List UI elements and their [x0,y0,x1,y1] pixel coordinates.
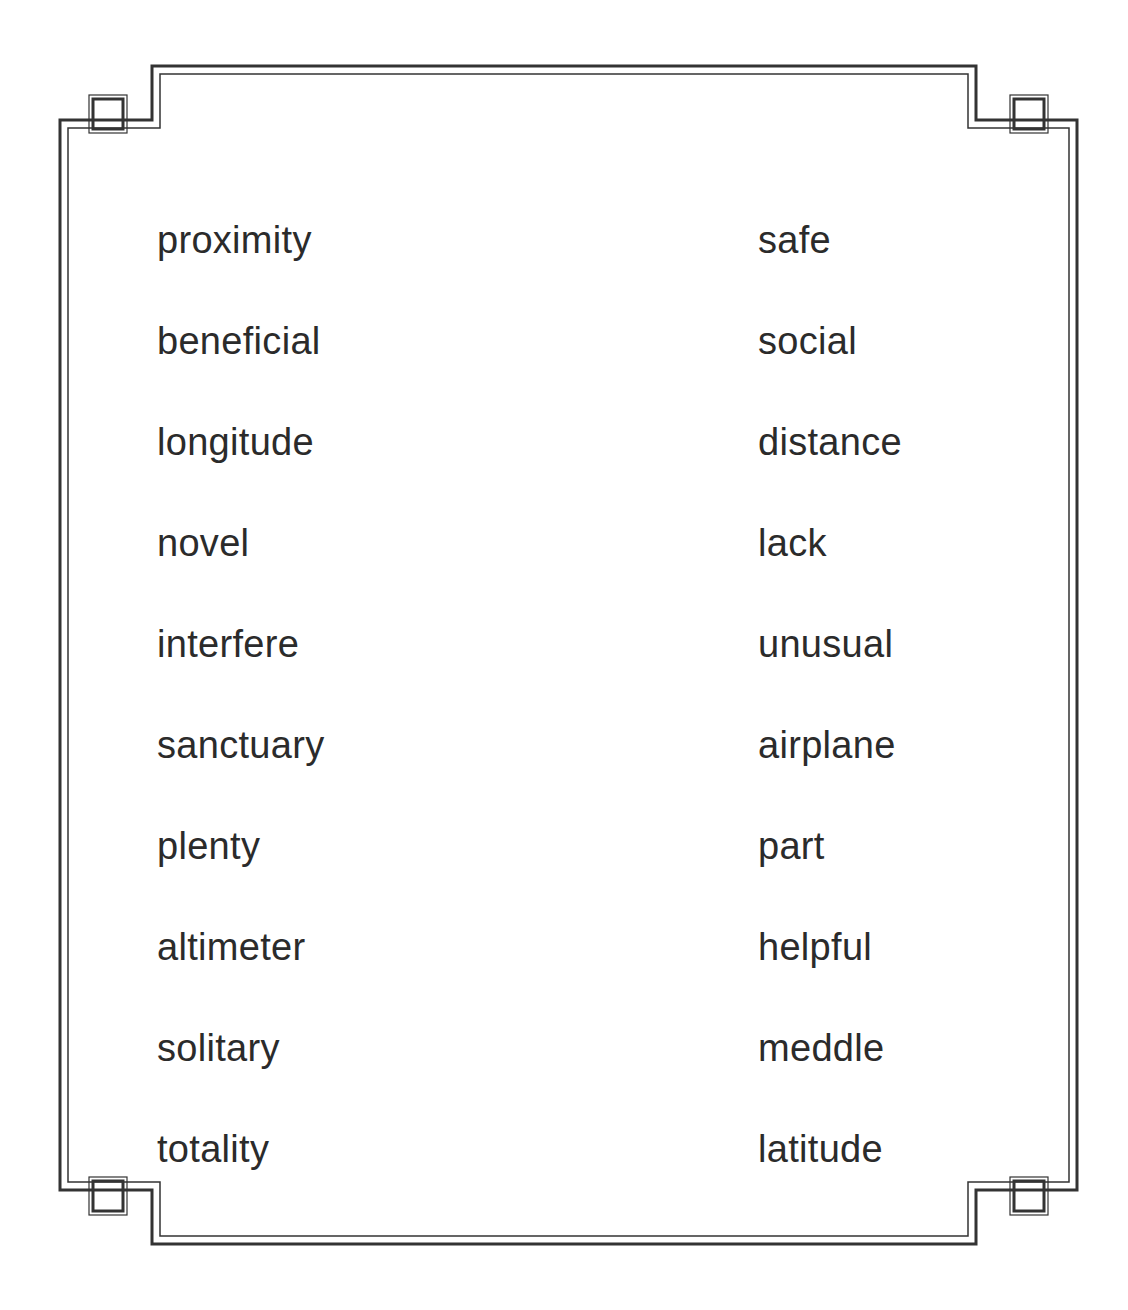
word-item[interactable]: distance [758,392,1078,493]
word-item[interactable]: lack [758,493,1078,594]
word-item[interactable]: plenty [157,796,750,897]
left-word-column: proximity beneficial longitude novel int… [60,160,750,1280]
word-item[interactable]: altimeter [157,897,750,998]
word-item[interactable]: longitude [157,392,750,493]
right-word-column: safe social distance lack unusual airpla… [750,160,1078,1280]
word-item[interactable]: interfere [157,594,750,695]
word-item[interactable]: novel [157,493,750,594]
word-item[interactable]: safe [758,190,1078,291]
word-item[interactable]: proximity [157,190,750,291]
word-list-area: proximity beneficial longitude novel int… [60,160,1078,1280]
corner-square-top-right [1014,99,1044,129]
word-item[interactable]: meddle [758,998,1078,1099]
word-item[interactable]: sanctuary [157,695,750,796]
worksheet-page: proximity beneficial longitude novel int… [0,0,1128,1310]
word-item[interactable]: airplane [758,695,1078,796]
corner-square-top-left [93,99,123,129]
word-item[interactable]: part [758,796,1078,897]
word-item[interactable]: social [758,291,1078,392]
word-item[interactable]: beneficial [157,291,750,392]
word-item[interactable]: solitary [157,998,750,1099]
word-item[interactable]: helpful [758,897,1078,998]
word-item[interactable]: unusual [758,594,1078,695]
word-item[interactable]: totality [157,1099,750,1200]
word-item[interactable]: latitude [758,1099,1078,1200]
